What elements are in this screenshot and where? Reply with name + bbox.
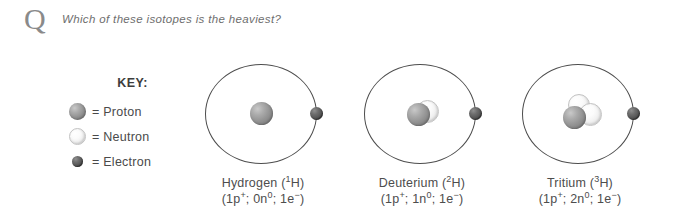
question-text: Which of these isotopes is the heaviest? <box>62 13 281 25</box>
sep-2: ; <box>590 192 597 206</box>
orbit-area-deuterium <box>342 62 502 166</box>
key-title: KEY: <box>62 76 197 90</box>
nucleus-tritium <box>550 90 606 138</box>
atom-composition-tritium: (1p+; 2n0; 1e−) <box>500 192 660 206</box>
comp-end: ) <box>459 192 463 206</box>
nucleus-hydrogen <box>233 90 289 138</box>
proton-count: (1p <box>381 192 400 206</box>
atom-name-tritium: Tritium (3H) <box>500 176 660 190</box>
key-item-neutron-label: = Neutron <box>92 130 150 144</box>
sep-2: ; <box>273 192 280 206</box>
sep-2: ; <box>432 192 439 206</box>
electron-icon <box>310 107 323 120</box>
atom-caption-tritium: Tritium (3H) (1p+; 2n0; 1e−) <box>500 176 660 206</box>
key-item-electron-label: = Electron <box>92 155 151 169</box>
neutron-count: 2n <box>570 192 584 206</box>
comp-end: ) <box>617 192 621 206</box>
atom-name-suffix: H) <box>452 176 466 190</box>
question-marker: Q <box>24 4 46 34</box>
atom-diagram-tritium: Tritium (3H) (1p+; 2n0; 1e−) <box>500 62 660 222</box>
atom-name-text: Deuterium ( <box>379 176 447 190</box>
atom-composition-deuterium: (1p+; 1n0; 1e−) <box>342 192 502 206</box>
atom-name-suffix: H) <box>599 176 613 190</box>
key-item-neutron: = Neutron <box>62 124 197 149</box>
atom-name-text: Tritium ( <box>547 176 594 190</box>
nucleus-deuterium <box>392 90 448 138</box>
orbit-area-hydrogen <box>183 62 343 166</box>
atom-caption-hydrogen: Hydrogen (1H) (1p+; 0n0; 1e−) <box>183 176 343 206</box>
key-item-electron: = Electron <box>62 149 197 174</box>
proton-count: (1p <box>222 192 241 206</box>
proton-icon <box>250 102 273 125</box>
neutron-count: 0n <box>253 192 267 206</box>
question-block: Q Which of these isotopes is the heavies… <box>0 0 683 48</box>
orbit-area-tritium <box>500 62 660 166</box>
atom-name-deuterium: Deuterium (2H) <box>342 176 502 190</box>
atom-diagram-hydrogen: Hydrogen (1H) (1p+; 0n0; 1e−) <box>183 62 343 222</box>
neutron-icon <box>62 128 92 145</box>
electron-icon <box>627 107 640 120</box>
atom-caption-deuterium: Deuterium (2H) (1p+; 1n0; 1e−) <box>342 176 502 206</box>
atom-name-hydrogen: Hydrogen (1H) <box>183 176 343 190</box>
atom-name-suffix: H) <box>291 176 305 190</box>
key-item-proton: = Proton <box>62 99 197 124</box>
atom-composition-hydrogen: (1p+; 0n0; 1e−) <box>183 192 343 206</box>
atom-name-text: Hydrogen ( <box>222 176 286 190</box>
proton-icon <box>563 106 586 129</box>
key-item-proton-label: = Proton <box>92 105 142 119</box>
electron-icon <box>62 156 92 167</box>
electron-count: 1e <box>280 192 294 206</box>
proton-icon <box>62 103 92 120</box>
proton-icon <box>407 103 430 126</box>
electron-count: 1e <box>597 192 611 206</box>
proton-count: (1p <box>539 192 558 206</box>
electron-icon <box>469 107 482 120</box>
electron-count: 1e <box>439 192 453 206</box>
comp-end: ) <box>300 192 304 206</box>
neutron-count: 1n <box>412 192 426 206</box>
atom-diagram-deuterium: Deuterium (2H) (1p+; 1n0; 1e−) <box>342 62 502 222</box>
key-legend: KEY: = Proton = Neutron = Electron <box>62 76 197 174</box>
